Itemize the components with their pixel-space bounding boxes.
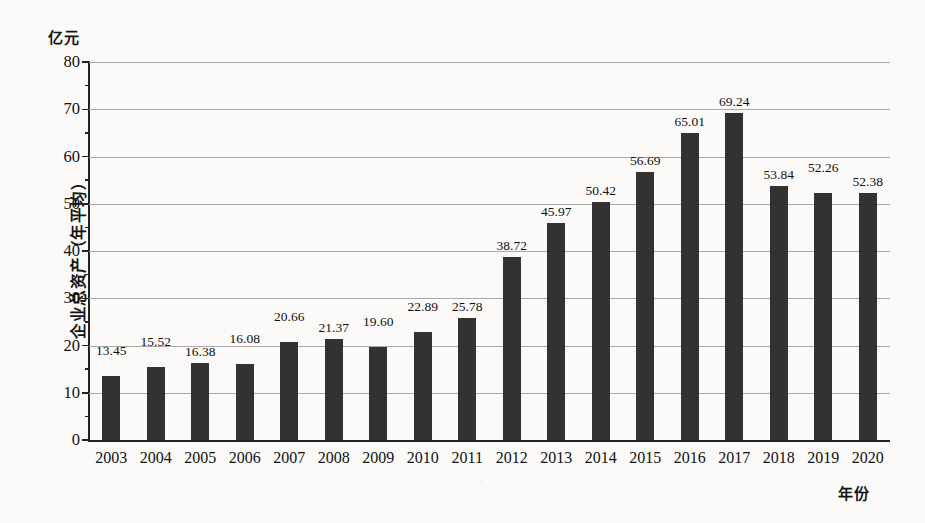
y-tick-major: [82, 156, 89, 158]
x-axis-title: 年份: [838, 482, 869, 503]
bar: [102, 376, 120, 440]
bar: [414, 332, 432, 440]
bar: [770, 186, 788, 440]
y-tick-label: 0: [46, 432, 80, 449]
bar: [280, 342, 298, 440]
bar-value-label: 52.26: [796, 161, 850, 175]
y-tick-label: 40: [46, 243, 80, 260]
bar-value-label: 56.69: [618, 154, 672, 168]
y-tick-label: 80: [46, 54, 80, 71]
bar: [681, 133, 699, 440]
bar-value-label: 52.38: [841, 175, 895, 189]
bar: [236, 364, 254, 440]
gridline: [89, 109, 890, 110]
y-tick-major: [82, 250, 89, 252]
bar: [458, 318, 476, 440]
plot-area: 13.4515.5216.3816.0820.6621.3719.6022.89…: [89, 62, 890, 440]
bar: [325, 339, 343, 440]
bar: [191, 363, 209, 440]
bar-value-label: 25.78: [440, 300, 494, 314]
y-tick-minor: [85, 416, 90, 418]
bar-value-label: 65.01: [663, 115, 717, 129]
bar: [503, 257, 521, 440]
y-tick-label: 70: [46, 101, 80, 118]
y-axis-unit-label: 亿元: [48, 26, 79, 47]
y-tick-label: 20: [46, 338, 80, 355]
bar: [725, 113, 743, 440]
y-axis-tick-labels: 01020304050607080: [42, 62, 80, 440]
bar-chart: 亿元 企业总资产（年平均） 年份 01020304050607080 13.45…: [0, 0, 925, 523]
y-tick-major: [82, 439, 89, 441]
x-axis-line: [88, 440, 890, 442]
bar: [547, 223, 565, 440]
y-tick-major: [82, 392, 89, 394]
bar-value-label: 38.72: [485, 239, 539, 253]
y-tick-minor: [85, 179, 90, 181]
bar: [636, 172, 654, 440]
y-tick-minor: [85, 85, 90, 87]
y-tick-major: [82, 203, 89, 205]
y-tick-minor: [85, 321, 90, 323]
y-tick-label: 30: [46, 290, 80, 307]
y-tick-minor: [85, 132, 90, 134]
bar: [859, 193, 877, 440]
gridline: [89, 157, 890, 158]
y-tick-minor: [85, 227, 90, 229]
bar: [592, 202, 610, 440]
bar-value-label: 16.08: [218, 332, 272, 346]
y-tick-major: [82, 298, 89, 300]
bar-value-label: 69.24: [707, 95, 761, 109]
bar-value-label: 45.97: [529, 205, 583, 219]
y-tick-major: [82, 109, 89, 111]
y-tick-major: [82, 61, 89, 63]
y-tick-label: 10: [46, 385, 80, 402]
x-tick-label: 2020: [841, 450, 895, 466]
gridline: [89, 62, 890, 63]
y-tick-minor: [85, 274, 90, 276]
bar: [369, 347, 387, 440]
y-tick-label: 50: [46, 196, 80, 213]
y-tick-minor: [85, 368, 90, 370]
bar-value-label: 50.42: [574, 184, 628, 198]
bar-value-label: 16.38: [173, 345, 227, 359]
bar: [147, 367, 165, 440]
bar: [814, 193, 832, 440]
bar-value-label: 19.60: [351, 315, 405, 329]
y-tick-label: 60: [46, 149, 80, 166]
